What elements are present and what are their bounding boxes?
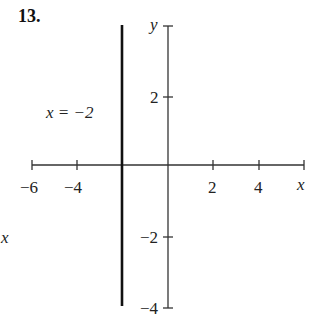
graph-figure: 13. −6 −4 2 4 x y 2 −2 −4 x = −2 bbox=[0, 0, 334, 331]
problem-number: 13. bbox=[18, 6, 41, 26]
y-axis-label: y bbox=[148, 15, 158, 34]
x-axis-label: x bbox=[296, 175, 305, 194]
x-tick-label-neg6: −6 bbox=[20, 178, 38, 197]
y-tick-label-neg4: −4 bbox=[140, 299, 159, 318]
coordinate-plane: 13. −6 −4 2 4 x y 2 −2 −4 x = −2 bbox=[0, 0, 334, 331]
y-tick-label-2: 2 bbox=[150, 88, 159, 107]
y-tick-label-neg2: −2 bbox=[140, 228, 158, 247]
x-tick-label-4: 4 bbox=[254, 178, 263, 197]
stray-x-label: x bbox=[0, 228, 9, 247]
equation-label: x = −2 bbox=[45, 103, 94, 122]
x-tick-label-2: 2 bbox=[208, 178, 217, 197]
x-tick-label-neg4: −4 bbox=[64, 178, 83, 197]
